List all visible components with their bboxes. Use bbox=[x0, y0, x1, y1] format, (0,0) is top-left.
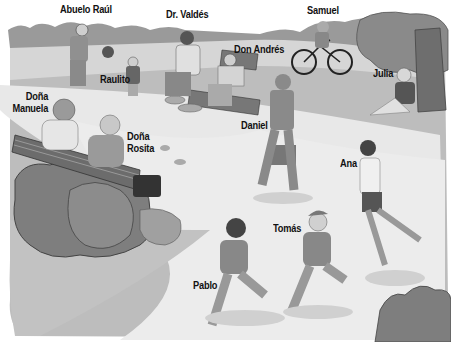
label-don-andres: Don Andrés bbox=[234, 43, 284, 55]
label-dona-rosita-line2: Rosita bbox=[127, 142, 154, 154]
label-samuel: Samuel bbox=[307, 4, 339, 16]
label-abuelo-raul: Abuelo Raúl bbox=[60, 3, 112, 15]
label-dona-manuela-line2: Manuela bbox=[11, 102, 48, 114]
label-ana: Ana bbox=[340, 157, 357, 169]
label-dona-rosita-line1: Doña bbox=[127, 130, 154, 142]
label-julia: Julia bbox=[373, 67, 393, 79]
label-raulito: Raulito bbox=[100, 73, 130, 85]
label-dona-manuela-line1: Doña bbox=[20, 90, 48, 102]
label-dona-manuela: Doña Manuela bbox=[20, 90, 48, 114]
label-daniel: Daniel bbox=[241, 119, 268, 131]
label-dona-rosita: Doña Rosita bbox=[127, 130, 154, 154]
label-pablo: Pablo bbox=[193, 279, 217, 291]
label-dr-valdes: Dr. Valdés bbox=[166, 8, 208, 20]
park-illustration: Abuelo Raúl Dr. Valdés Samuel Don Andrés… bbox=[0, 0, 451, 342]
park-scene-drawing bbox=[0, 0, 451, 342]
label-tomas: Tomás bbox=[273, 222, 301, 234]
